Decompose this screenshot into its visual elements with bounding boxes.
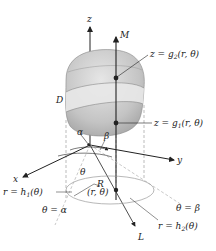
d-label: D — [55, 95, 63, 105]
z-axis-label: z — [86, 14, 92, 24]
diagram-canvas: z M D z = g2(r, θ) z = g1(r, θ) α β θ x … — [0, 0, 216, 251]
y-axis-label: y — [176, 155, 183, 165]
x-axis-label: x — [13, 174, 18, 184]
m-label: M — [119, 30, 130, 40]
leader-h2 — [130, 198, 158, 220]
point-label: (r, θ) — [87, 187, 109, 197]
inner-curve-label: r = h1(θ) — [3, 187, 43, 198]
y-axis — [90, 145, 174, 160]
ray-beta-label: θ = β — [176, 203, 200, 213]
ray-alpha-label: θ = α — [42, 205, 67, 215]
region-diagram: z M D z = g2(r, θ) z = g1(r, θ) α β θ x … — [0, 0, 216, 251]
lower-surface-label: z = g1(r, θ) — [153, 118, 204, 129]
l-label: L — [137, 232, 144, 242]
theta-label: θ — [80, 167, 86, 177]
alpha-label: α — [77, 127, 83, 137]
beta-label: β — [103, 131, 109, 141]
upper-surface-label: z = g2(r, θ) — [149, 49, 200, 60]
outer-curve-label: r = h2(θ) — [158, 221, 198, 232]
